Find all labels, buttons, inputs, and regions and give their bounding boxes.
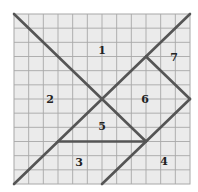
piece-label-2: 2 xyxy=(46,93,54,106)
piece-label-3: 3 xyxy=(75,156,83,169)
piece-label-5: 5 xyxy=(98,120,106,133)
tangram-diagram: 1 2 3 4 5 6 7 xyxy=(0,0,198,192)
piece-label-4: 4 xyxy=(160,155,168,168)
piece-label-1: 1 xyxy=(98,44,106,57)
piece-label-7: 7 xyxy=(170,51,178,64)
piece-label-6: 6 xyxy=(141,93,149,106)
